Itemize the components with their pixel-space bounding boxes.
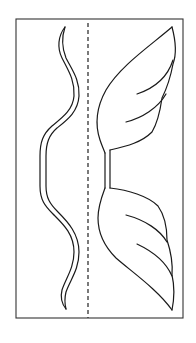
wing-template-diagram	[0, 0, 196, 343]
outer-frame	[16, 19, 183, 318]
upper-wing	[97, 27, 175, 153]
wavy-strip	[40, 27, 79, 309]
lower-wing	[98, 188, 174, 310]
template-canvas	[0, 0, 196, 343]
wing-stem	[105, 150, 110, 188]
